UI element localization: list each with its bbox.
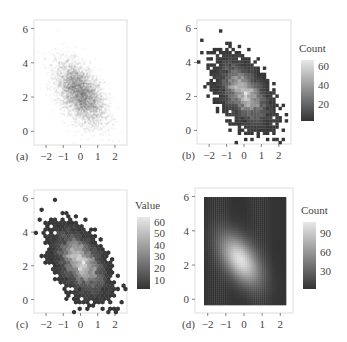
y-tick-label: 2: [184, 259, 190, 271]
x-tick-label: 0: [78, 318, 84, 330]
y-tick-label: 6: [23, 23, 29, 35]
legend-tick-label: 40: [318, 79, 330, 91]
y-tick-label: 2: [186, 90, 192, 102]
y-tick-label: 4: [23, 226, 29, 238]
square-bin-plot-b: 0246−2−1012(b)Count204060: [164, 0, 347, 170]
x-tick-label: 2: [278, 318, 284, 330]
x-tick-label: −1: [57, 318, 69, 330]
panel-label: (c): [16, 318, 29, 331]
y-tick-label: 6: [184, 191, 190, 203]
y-tick-label: 2: [23, 91, 29, 103]
square-bins: [197, 29, 288, 144]
x-tick-label: −2: [202, 318, 214, 330]
panel-a: 0246−2−1012(a): [0, 0, 175, 170]
colorbar: [137, 217, 150, 289]
legend-tick-label: 20: [318, 98, 330, 110]
x-tick-label: −1: [57, 150, 69, 162]
y-tick-label: 0: [23, 294, 29, 306]
y-tick-label: 0: [23, 125, 29, 137]
scatter-points: [34, 30, 125, 146]
density-raster: [204, 197, 286, 305]
y-tick-label: 4: [23, 57, 29, 69]
scatter-plot-a: 0246−2−1012(a): [0, 0, 175, 170]
panel-c: 0246−2−1012(c)Value102030405060: [0, 170, 175, 342]
legend-title: Count: [301, 204, 328, 216]
x-tick-label: −1: [221, 149, 233, 161]
y-tick-label: 0: [184, 293, 190, 305]
x-tick-label: −1: [220, 318, 232, 330]
panel-d: 0246−2−1012(d)Count306090: [164, 170, 347, 342]
x-tick-label: 1: [259, 318, 265, 330]
legend-tick-label: 90: [320, 227, 332, 239]
x-tick-label: −2: [40, 150, 52, 162]
density-plot-d: 0246−2−1012(d)Count306090: [164, 170, 347, 342]
x-tick-label: 0: [78, 150, 84, 162]
colorbar: [303, 222, 316, 289]
y-tick-label: 6: [23, 192, 29, 204]
x-tick-label: 2: [112, 150, 118, 162]
panel-label: (a): [16, 150, 29, 163]
y-tick-label: 4: [186, 56, 192, 68]
x-tick-label: 2: [112, 318, 118, 330]
y-tick-label: 0: [186, 124, 192, 136]
hex-bins: [34, 198, 128, 315]
legend-title: Value: [135, 199, 160, 211]
y-tick-label: 2: [23, 260, 29, 272]
hex-bin-plot-c: 0246−2−1012(c)Value102030405060: [0, 170, 175, 342]
x-tick-label: 1: [95, 150, 101, 162]
legend-title: Count: [299, 42, 326, 54]
x-tick-label: 0: [241, 318, 247, 330]
panel-label: (d): [182, 318, 195, 331]
panel-b: 0246−2−1012(b)Count204060: [164, 0, 347, 170]
legend-tick-label: 30: [320, 265, 332, 277]
legend-tick-label: 60: [318, 60, 330, 72]
x-tick-label: 2: [276, 149, 282, 161]
x-tick-label: −2: [203, 149, 215, 161]
legend-tick-label: 60: [320, 246, 332, 258]
y-tick-label: 6: [186, 22, 192, 34]
y-tick-label: 4: [184, 225, 190, 237]
panel-label: (b): [182, 149, 195, 162]
x-tick-label: 1: [95, 318, 101, 330]
x-tick-label: −2: [40, 318, 52, 330]
x-tick-label: 0: [241, 149, 247, 161]
colorbar: [301, 60, 314, 121]
x-tick-label: 1: [259, 149, 265, 161]
